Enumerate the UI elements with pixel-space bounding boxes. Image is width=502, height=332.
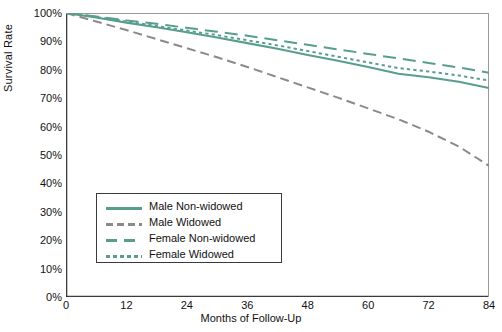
legend-label: Female Widowed <box>149 248 234 260</box>
chart-legend: Male Non-widowedMale WidowedFemale Non-w… <box>96 193 282 263</box>
legend-label: Male Non-widowed <box>149 200 243 212</box>
x-axis-title: Months of Follow-Up <box>0 312 502 324</box>
legend-item: Female Widowed <box>97 247 283 264</box>
legend-swatch <box>106 255 142 258</box>
legend-swatch <box>106 207 142 210</box>
x-tick-label: 36 <box>241 299 253 311</box>
y-tick-label: 10% <box>16 264 62 274</box>
legend-item: Female Non-widowed <box>97 231 283 248</box>
survival-chart-figure: Survival Rate 0%10%20%30%40%50%60%70%80%… <box>0 0 502 332</box>
legend-swatch <box>106 239 142 242</box>
legend-swatch <box>106 223 142 226</box>
y-tick-label: 90% <box>16 36 62 46</box>
legend-item: Male Widowed <box>97 215 283 232</box>
legend-item: Male Non-widowed <box>97 199 283 216</box>
series-line <box>66 13 489 166</box>
legend-label: Male Widowed <box>149 216 221 228</box>
y-tick-label: 40% <box>16 178 62 188</box>
x-tick-label: 60 <box>362 299 374 311</box>
y-tick-label: 100% <box>16 8 62 18</box>
y-tick-label: 60% <box>16 122 62 132</box>
y-tick-label: 20% <box>16 235 62 245</box>
y-axis-tick-labels: 0%10%20%30%40%50%60%70%80%90%100% <box>10 0 62 332</box>
y-tick-label: 30% <box>16 207 62 217</box>
y-tick-label: 50% <box>16 150 62 160</box>
legend-label: Female Non-widowed <box>149 232 255 244</box>
series-line <box>66 13 489 88</box>
y-tick-label: 70% <box>16 93 62 103</box>
x-tick-label: 84 <box>483 299 495 311</box>
x-tick-label: 12 <box>120 299 132 311</box>
x-tick-label: 48 <box>302 299 314 311</box>
x-tick-label: 0 <box>63 299 69 311</box>
x-tick-label: 72 <box>422 299 434 311</box>
x-tick-label: 24 <box>181 299 193 311</box>
y-tick-label: 80% <box>16 65 62 75</box>
